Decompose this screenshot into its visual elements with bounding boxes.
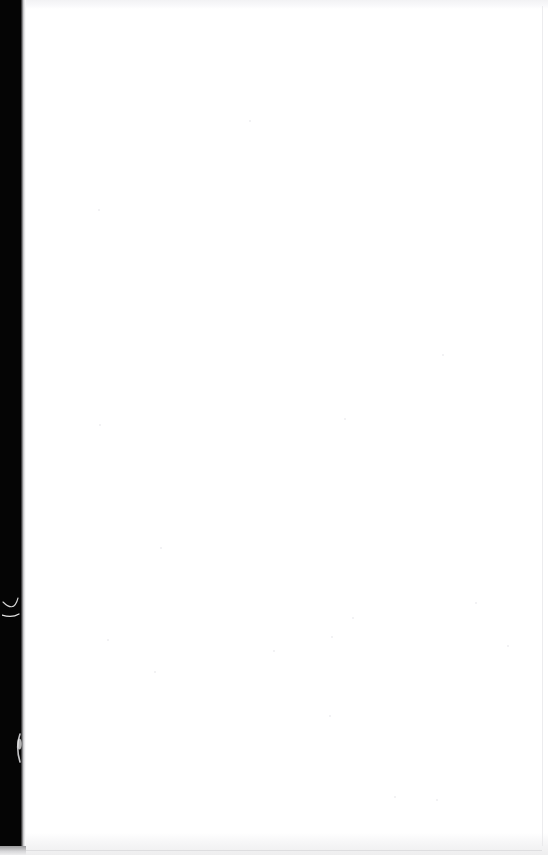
scanned-page bbox=[0, 0, 548, 855]
binding-gutter-foot bbox=[0, 846, 26, 855]
scan-edge-band-top bbox=[22, 0, 548, 9]
paper-speck bbox=[507, 645, 509, 647]
binding-gutter bbox=[0, 0, 21, 846]
paper-speck bbox=[344, 418, 346, 420]
binding-gutter-edge bbox=[21, 0, 26, 846]
scan-hairline-right bbox=[542, 6, 543, 846]
paper-speck bbox=[107, 639, 109, 641]
scan-hairline-bottom bbox=[22, 850, 542, 851]
scan-edge-band-bottom bbox=[22, 833, 548, 855]
paper-speck bbox=[99, 424, 101, 426]
paper-speck bbox=[154, 671, 156, 673]
paper-speck bbox=[273, 650, 275, 652]
paper-speck bbox=[331, 636, 333, 638]
blank-paper-field bbox=[0, 0, 548, 855]
paper-speck bbox=[249, 120, 251, 122]
paper-speck bbox=[394, 796, 396, 798]
